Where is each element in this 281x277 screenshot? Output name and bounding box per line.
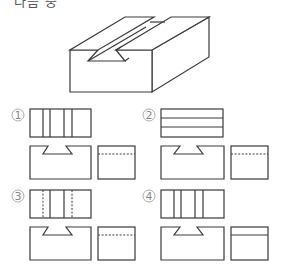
option-3-top-view xyxy=(30,190,91,218)
option-1[interactable]: 1 xyxy=(12,109,135,179)
drawing-canvas: 1 2 3 4 xyxy=(0,0,281,277)
option-2-top-view xyxy=(161,109,223,137)
option-3-front-view xyxy=(30,227,91,260)
isometric-block xyxy=(70,17,209,92)
option-1-side-view xyxy=(98,146,135,179)
option-3[interactable]: 3 xyxy=(12,190,135,260)
option-2-front-view xyxy=(161,146,224,179)
option-4[interactable]: 4 xyxy=(143,190,268,260)
option-4-top-view xyxy=(161,190,224,218)
svg-text:4: 4 xyxy=(146,190,153,203)
option-2-side-view xyxy=(231,146,268,179)
option-2[interactable]: 2 xyxy=(143,109,268,179)
svg-text:3: 3 xyxy=(15,190,22,203)
option-4-side-view xyxy=(231,227,268,260)
svg-text:1: 1 xyxy=(15,109,22,122)
option-1-top-view xyxy=(30,109,91,137)
option-4-front-view xyxy=(161,227,224,260)
svg-text:2: 2 xyxy=(146,109,153,122)
option-3-side-view xyxy=(98,227,135,260)
option-1-front-view xyxy=(30,146,91,179)
